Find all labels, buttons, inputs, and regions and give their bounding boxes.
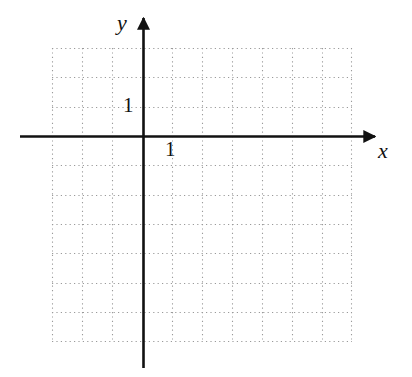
x-axis-label: x [378,140,388,162]
y-axis-label: y [117,12,127,34]
grid-vertical-lines [53,48,352,341]
y-axis-tick-label-1: 1 [123,95,134,116]
x-axis-tick-label-1: 1 [165,139,176,160]
coordinate-grid-figure: 1 1 y x [0,0,412,377]
plot-area [0,0,412,377]
